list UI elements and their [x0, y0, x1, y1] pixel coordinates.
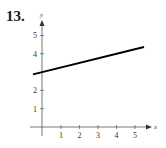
y-axis-label: y [39, 11, 44, 19]
x-tick-label: 1 [59, 131, 63, 140]
y-axis-arrow-icon [40, 20, 45, 26]
x-axis-label: x [153, 123, 158, 131]
data-line [33, 47, 144, 74]
y-tick-label: 5 [33, 31, 37, 40]
x-tick-label: 2 [78, 131, 82, 140]
y-tick-label: 2 [33, 86, 37, 95]
x-axis-arrow-icon [146, 125, 152, 130]
y-tick-label: 1 [33, 105, 37, 114]
y-tick-label: 4 [33, 50, 37, 59]
x-tick-label: 5 [133, 131, 137, 140]
line-chart: x y 1 2 3 4 5 1 2 4 5 [0, 0, 166, 148]
x-tick-label: 3 [96, 131, 100, 140]
x-tick-label: 4 [115, 131, 119, 140]
